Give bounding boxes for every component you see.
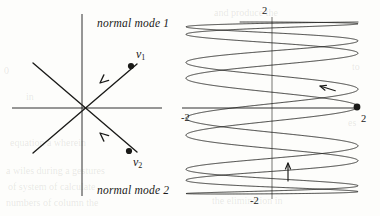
orbit-start-marker — [354, 104, 361, 111]
right-panel-svg — [0, 0, 380, 216]
orbit-arrow-upper-right — [320, 85, 335, 90]
orbit-axis-label-top: 2 — [262, 6, 267, 17]
orbit-axis-label-left: -2 — [181, 113, 190, 124]
orbit-arrow-lower-middle — [285, 163, 290, 181]
orbit-start-point — [354, 104, 361, 111]
orbit-axis-label-right: 2 — [361, 114, 366, 125]
normal-modes-figure: 0inequation a whereina wiles during a ge… — [0, 0, 380, 216]
orbit-axis-label-bottom: -2 — [250, 196, 259, 207]
